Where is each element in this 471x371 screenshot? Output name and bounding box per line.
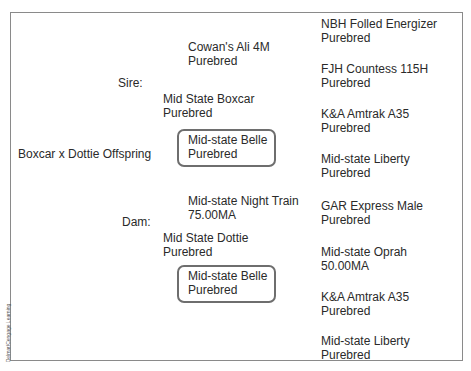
grandparent-status: 75.00MA	[188, 208, 299, 222]
great-grandparent-entry: NBH Folled Energizer Purebred	[321, 17, 437, 45]
grandparent-entry-highlighted: Mid-state Belle Purebred	[188, 269, 267, 297]
great-grandparent-entry: K&A Amtrak A35 Purebred	[321, 107, 409, 135]
great-grandparent-status: Purebred	[321, 213, 423, 227]
great-grandparent-name: Mid-state Oprah	[321, 245, 407, 259]
sire-entry: Mid State Boxcar Purebred	[163, 92, 254, 120]
great-grandparent-name: NBH Folled Energizer	[321, 17, 437, 31]
great-grandparent-status: Purebred	[321, 76, 428, 90]
sire-label: Sire:	[118, 76, 143, 90]
great-grandparent-name: FJH Countess 115H	[321, 62, 428, 76]
grandparent-status: Purebred	[188, 147, 267, 161]
grandparent-entry: Cowan's Ali 4M Purebred	[188, 40, 270, 68]
great-grandparent-name: Mid-state Liberty	[321, 334, 410, 348]
great-grandparent-entry: FJH Countess 115H Purebred	[321, 62, 428, 90]
great-grandparent-name: K&A Amtrak A35	[321, 290, 409, 304]
grandparent-name: Cowan's Ali 4M	[188, 40, 270, 54]
grandparent-name: Mid-state Belle	[188, 269, 267, 283]
great-grandparent-name: GAR Express Male	[321, 199, 423, 213]
grandparent-status: Purebred	[188, 283, 267, 297]
great-grandparent-status: 50.00MA	[321, 259, 407, 273]
dam-name: Mid State Dottie	[163, 231, 248, 245]
great-grandparent-name: Mid-state Liberty	[321, 152, 410, 166]
dam-label: Dam:	[122, 215, 151, 229]
offspring-label: Boxcar x Dottie Offspring	[18, 147, 151, 161]
great-grandparent-entry: Mid-state Oprah 50.00MA	[321, 245, 407, 273]
great-grandparent-status: Purebred	[321, 348, 410, 362]
great-grandparent-entry: K&A Amtrak A35 Purebred	[321, 290, 409, 318]
great-grandparent-name: K&A Amtrak A35	[321, 107, 409, 121]
grandparent-entry: Mid-state Night Train 75.00MA	[188, 194, 299, 222]
great-grandparent-status: Purebred	[321, 31, 437, 45]
sire-name: Mid State Boxcar	[163, 92, 254, 106]
grandparent-name: Mid-state Night Train	[188, 194, 299, 208]
great-grandparent-status: Purebred	[321, 166, 410, 180]
dam-entry: Mid State Dottie Purebred	[163, 231, 248, 259]
great-grandparent-status: Purebred	[321, 121, 409, 135]
sire-status: Purebred	[163, 106, 254, 120]
dam-status: Purebred	[163, 245, 248, 259]
great-grandparent-status: Purebred	[321, 304, 409, 318]
grandparent-entry-highlighted: Mid-state Belle Purebred	[188, 133, 267, 161]
grandparent-name: Mid-state Belle	[188, 133, 267, 147]
grandparent-status: Purebred	[188, 54, 270, 68]
great-grandparent-entry: Mid-state Liberty Purebred	[321, 152, 410, 180]
great-grandparent-entry: GAR Express Male Purebred	[321, 199, 423, 227]
great-grandparent-entry: Mid-state Liberty Purebred	[321, 334, 410, 362]
credit-text: Delmar/Cengage Learning	[5, 285, 11, 371]
